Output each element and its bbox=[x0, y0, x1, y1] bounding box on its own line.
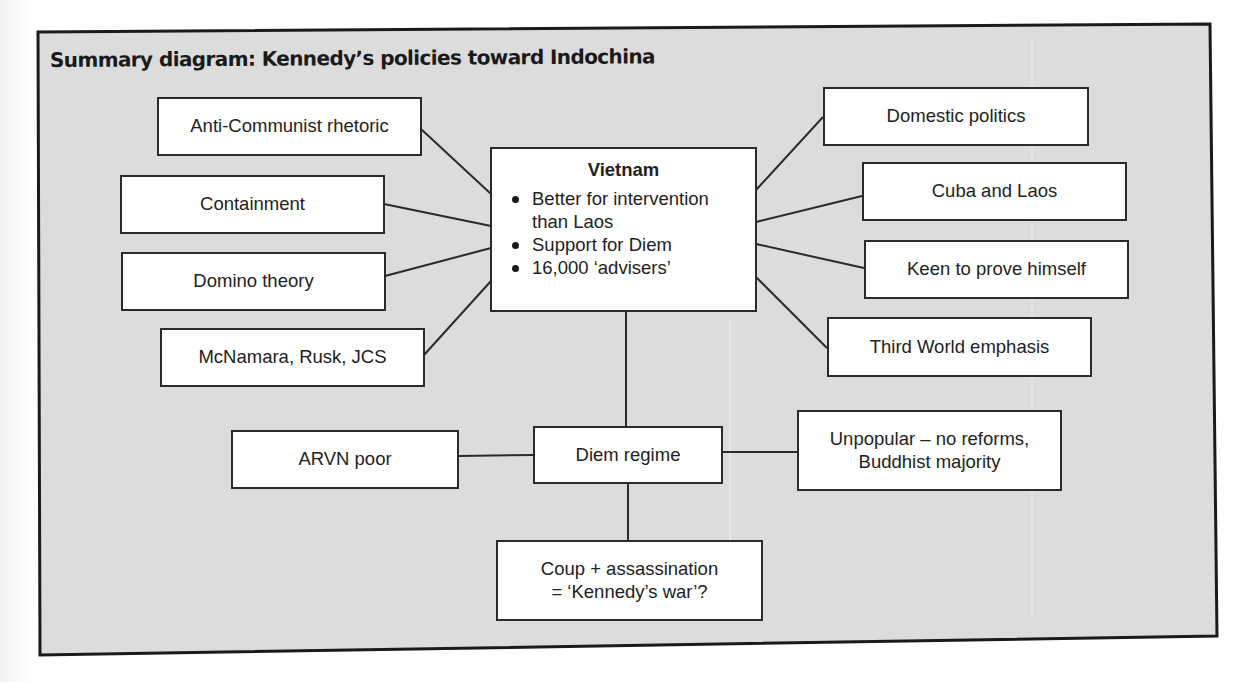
factor-mcnamara-rusk-jcs: McNamara, Rusk, JCS bbox=[160, 328, 425, 387]
arvn-poor-box: ARVN poor bbox=[231, 430, 459, 489]
factor-keen-to-prove-himself: Keen to prove himself bbox=[864, 240, 1129, 299]
factor-label: McNamara, Rusk, JCS bbox=[198, 346, 386, 369]
arvn-label: ARVN poor bbox=[298, 448, 391, 471]
diagram-title: Summary diagram: Kennedy’s policies towa… bbox=[50, 44, 655, 72]
vietnam-box: Vietnam Better for intervention than Lao… bbox=[490, 147, 757, 312]
factor-third-world-emphasis: Third World emphasis bbox=[827, 317, 1092, 377]
bullet-item: Better for intervention than Laos bbox=[506, 188, 741, 234]
factor-anti-communist-rhetoric: Anti-Communist rhetoric bbox=[157, 97, 422, 156]
factor-containment: Containment bbox=[120, 175, 385, 234]
factor-label: Anti-Communist rhetoric bbox=[190, 115, 388, 138]
coup-line-2: = ‘Kennedy’s war’? bbox=[541, 581, 718, 604]
factor-label: Third World emphasis bbox=[870, 336, 1050, 359]
unpopular-line-1: Unpopular – no reforms, bbox=[830, 428, 1030, 451]
factor-label: Keen to prove himself bbox=[907, 258, 1086, 281]
unpopular-label: Unpopular – no reforms, Buddhist majorit… bbox=[830, 428, 1030, 473]
factor-domestic-politics: Domestic politics bbox=[823, 87, 1089, 146]
connector-diem-arvn bbox=[458, 455, 533, 456]
coup-line-1: Coup + assassination bbox=[541, 558, 718, 581]
unpopular-box: Unpopular – no reforms, Buddhist majorit… bbox=[797, 410, 1062, 491]
factor-domino-theory: Domino theory bbox=[121, 252, 386, 311]
coup-assassination-box: Coup + assassination = ‘Kennedy’s war’? bbox=[496, 540, 763, 621]
bullet-item: 16,000 ‘advisers’ bbox=[506, 257, 741, 280]
factor-label: Containment bbox=[200, 193, 305, 216]
factor-label: Domestic politics bbox=[887, 105, 1026, 128]
factor-label: Cuba and Laos bbox=[932, 180, 1058, 203]
diem-regime-box: Diem regime bbox=[533, 426, 723, 484]
unpopular-line-2: Buddhist majority bbox=[830, 451, 1030, 474]
vietnam-heading: Vietnam bbox=[506, 159, 741, 182]
factor-label: Domino theory bbox=[193, 270, 313, 293]
diem-label: Diem regime bbox=[576, 444, 681, 467]
bullet-item: Support for Diem bbox=[506, 234, 741, 257]
coup-label: Coup + assassination = ‘Kennedy’s war’? bbox=[541, 558, 718, 603]
factor-cuba-and-laos: Cuba and Laos bbox=[862, 162, 1127, 221]
vietnam-bullet-list: Better for intervention than Laos Suppor… bbox=[506, 188, 741, 280]
